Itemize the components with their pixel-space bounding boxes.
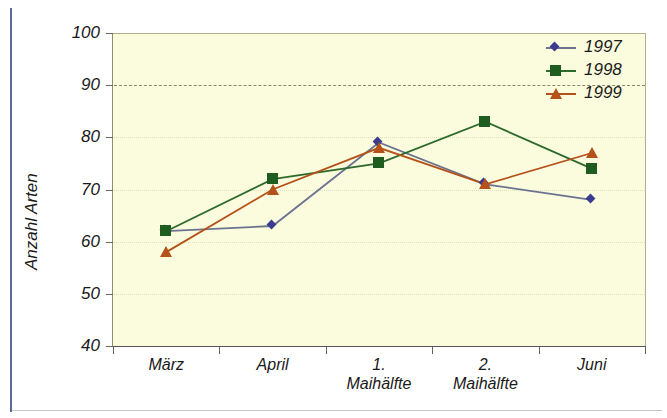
figure-root: 100908070605040 MärzApril1.Maihälfte2.Ma… (0, 0, 667, 418)
line-chart: 100908070605040 MärzApril1.Maihälfte2.Ma… (0, 0, 667, 418)
legend-label: 1999 (584, 82, 622, 104)
legend: 199719981999 (546, 36, 642, 105)
legend-label: 1997 (584, 36, 622, 58)
legend-label: 1998 (584, 59, 622, 81)
legend-item-1997[interactable]: 1997 (546, 36, 642, 59)
legend-item-1999[interactable]: 1999 (546, 82, 642, 105)
series-line-1997 (166, 143, 592, 232)
legend-item-1998[interactable]: 1998 (546, 59, 642, 82)
